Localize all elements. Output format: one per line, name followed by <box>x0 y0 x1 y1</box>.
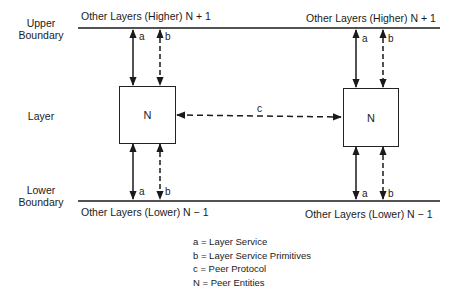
right-entity-label: N <box>367 112 375 124</box>
right-upper-a-label: a <box>362 33 368 45</box>
lower-boundary-label-line1: Lower <box>10 184 72 196</box>
lower-left-caption: Other Layers (Lower) N − 1 <box>81 206 209 218</box>
layer-label: Layer <box>10 110 72 122</box>
legend-item-n: N = Peer Entities <box>193 276 311 290</box>
left-lower-a-label: a <box>139 186 145 198</box>
legend: a = Layer Service b = Layer Service Prim… <box>193 235 311 289</box>
left-upper-a-label: a <box>139 31 145 43</box>
right-lower-b-label: b <box>388 188 394 200</box>
legend-item-c: c = Peer Protocol <box>193 262 311 276</box>
peer-protocol-arrow <box>177 115 341 117</box>
legend-item-a: a = Layer Service <box>193 235 311 249</box>
left-entity-label: N <box>144 109 152 121</box>
right-lower-a-label: a <box>362 188 368 200</box>
left-peer-entity-box: N <box>119 86 176 144</box>
upper-right-caption: Other Layers (Higher) N + 1 <box>306 12 436 24</box>
right-peer-entity-box: N <box>343 88 399 147</box>
lower-boundary-label-line2: Boundary <box>10 196 72 208</box>
right-upper-b-label: b <box>388 33 394 45</box>
upper-left-caption: Other Layers (Higher) N + 1 <box>81 10 211 22</box>
left-upper-b-label: b <box>165 31 171 43</box>
lower-right-caption: Other Layers (Lower) N − 1 <box>305 208 433 220</box>
upper-boundary-label-line1: Upper <box>10 17 72 29</box>
upper-boundary-label-line2: Boundary <box>10 29 72 41</box>
left-lower-b-label: b <box>165 186 171 198</box>
lower-boundary-label: Lower Boundary <box>10 184 72 208</box>
peer-protocol-c-label: c <box>257 103 262 115</box>
upper-boundary-label: Upper Boundary <box>10 17 72 41</box>
legend-item-b: b = Layer Service Primitives <box>193 249 311 263</box>
